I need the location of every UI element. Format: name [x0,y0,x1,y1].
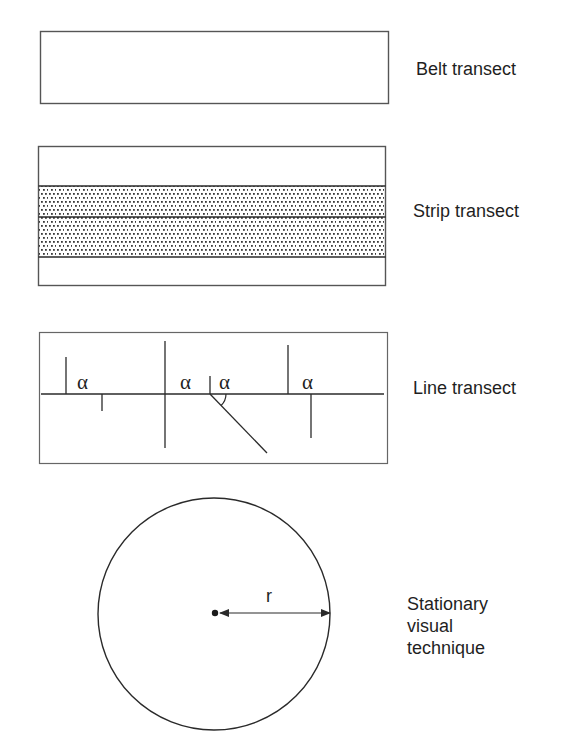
strip-transect-stippled-band [39,186,386,257]
stationary-label-line-2: visual [407,615,488,637]
sighting-line-diagonal [210,394,267,453]
transect-methods-figure: α α α α r Belt transect Strip transect L… [0,0,573,745]
line-transect-panel: α α α α [40,333,388,464]
angle-label-1: α [77,370,88,394]
line-transect-label: Line transect [413,377,516,399]
angle-label-4: α [302,370,313,394]
belt-transect-label: Belt transect [416,58,516,80]
stationary-label-line-3: technique [407,637,488,659]
angle-label-2: α [180,370,191,394]
belt-transect-panel [41,32,389,104]
angle-label-3: α [219,370,230,394]
radius-label: r [266,586,272,606]
stationary-label-line-1: Stationary [407,593,488,615]
observer-point [212,610,218,616]
stationary-visual-technique-label: Stationary visual technique [407,593,488,659]
strip-transect-panel [39,147,386,286]
angle-arc [221,394,226,406]
belt-transect-box [41,32,389,104]
stationary-visual-panel: r [98,498,330,730]
strip-transect-label: Strip transect [413,200,519,222]
